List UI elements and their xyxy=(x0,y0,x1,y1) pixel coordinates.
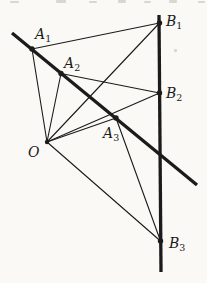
segment-O-A1 xyxy=(32,49,47,142)
scanned-diagram-page: OA1A2A3B1B2B3 xyxy=(0,0,207,283)
point-label-main-A2: A xyxy=(62,55,74,71)
point-dot-B2 xyxy=(157,90,162,95)
point-label-subscript-A2: 2 xyxy=(74,62,80,73)
point-label-main-B3: B xyxy=(168,235,179,251)
point-dot-B3 xyxy=(158,238,163,243)
scan-artifact xyxy=(10,1,19,3)
point-dot-A1 xyxy=(29,46,34,51)
point-label-A1: A1 xyxy=(33,26,51,44)
point-label-main-B1: B xyxy=(165,13,176,29)
point-label-B3: B3 xyxy=(168,235,185,253)
point-label-main-B2: B xyxy=(165,85,176,101)
point-label-B2: B2 xyxy=(165,85,182,103)
point-label-subscript-A1: 1 xyxy=(45,33,51,44)
segment-O-A2 xyxy=(47,74,61,143)
line-through-B-points xyxy=(159,15,161,272)
point-dot-A2 xyxy=(58,71,63,76)
scan-artifact xyxy=(169,0,177,3)
point-label-subscript-B2: 2 xyxy=(176,92,182,103)
scan-artifact xyxy=(89,1,97,3)
scan-artifact xyxy=(174,49,177,52)
point-dot-B1 xyxy=(157,20,162,25)
point-label-main-A3: A xyxy=(101,125,113,141)
point-label-A2: A2 xyxy=(62,55,80,73)
scan-artifact xyxy=(118,0,126,3)
segment-O-B3 xyxy=(47,142,161,241)
point-label-O: O xyxy=(28,144,40,160)
point-label-subscript-A3: 3 xyxy=(113,132,119,143)
point-label-B1: B1 xyxy=(165,13,182,31)
point-label-subscript-B3: 3 xyxy=(179,242,185,253)
line-through-A-points xyxy=(12,33,197,185)
point-label-main-O: O xyxy=(28,144,40,160)
geometry-svg: OA1A2A3B1B2B3 xyxy=(0,0,207,283)
point-dot-A3 xyxy=(113,115,118,120)
scan-artifact xyxy=(144,1,151,3)
segment-A2-B2 xyxy=(61,74,160,94)
point-dot-O xyxy=(45,140,49,144)
point-label-A3: A3 xyxy=(101,125,119,143)
scan-artifact xyxy=(198,1,205,3)
point-label-main-A1: A xyxy=(33,26,45,42)
scan-artifact xyxy=(56,0,66,3)
point-label-subscript-B1: 1 xyxy=(176,20,182,31)
